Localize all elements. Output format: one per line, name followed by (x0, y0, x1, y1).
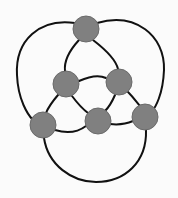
node-top (73, 16, 99, 42)
node-bottom-left (30, 112, 56, 138)
node-bottom-center (85, 108, 111, 134)
node-mid-left (53, 71, 79, 97)
graph-diagram (0, 0, 178, 198)
node-mid-right (106, 69, 132, 95)
node-bottom-right (132, 104, 158, 130)
